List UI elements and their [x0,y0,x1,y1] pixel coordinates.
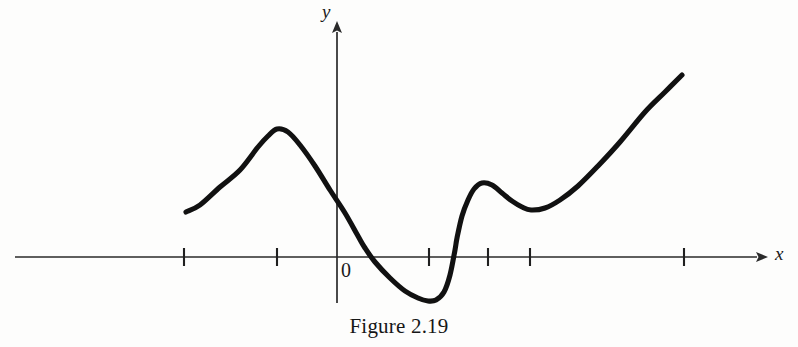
figure-container: y x 0 Figure 2.19 [0,0,798,347]
x-axis-label: x [775,244,783,263]
figure-caption: Figure 2.19 [0,314,798,339]
axes-group [15,32,757,303]
origin-label: 0 [341,260,351,280]
function-curve [186,75,682,301]
figure-plot-svg [0,0,798,347]
y-axis-label: y [322,2,330,21]
